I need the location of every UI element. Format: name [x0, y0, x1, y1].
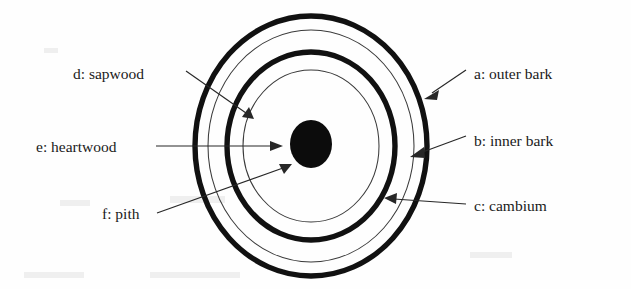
leader-sapwood	[186, 71, 246, 113]
arrowhead-outer-bark	[424, 90, 439, 100]
leader-outer-bark	[432, 70, 466, 93]
leader-cambium	[394, 199, 466, 204]
arrowhead-sapwood	[242, 107, 254, 119]
arrowhead-heartwood	[270, 141, 283, 151]
label-inner-bark: b: inner bark	[474, 132, 553, 149]
label-pith: f: pith	[102, 205, 140, 222]
label-sapwood: d: sapwood	[73, 65, 144, 82]
label-cambium: c: cambium	[474, 197, 547, 214]
scan-noise	[24, 48, 512, 278]
leader-pith	[157, 168, 283, 213]
label-outer-bark: a: outer bark	[474, 65, 553, 82]
diagram-canvas: d: sapwood a: outer bark e: heartwood b:…	[0, 0, 631, 289]
arrowhead-inner-bark	[410, 147, 425, 158]
pith-core	[290, 120, 332, 168]
label-heartwood: e: heartwood	[36, 138, 117, 155]
tree-cross-section-figure: d: sapwood a: outer bark e: heartwood b:…	[0, 0, 631, 289]
